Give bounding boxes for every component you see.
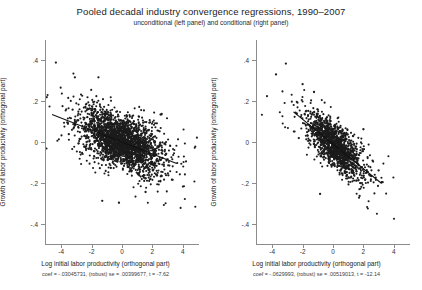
y-tick-right-4: -.4	[252, 224, 256, 225]
y-tick-label: .4	[33, 57, 38, 64]
y-tick-label: -.4	[242, 220, 249, 227]
y-tick-mark	[41, 183, 45, 184]
y-tick-right-3: -.2	[252, 183, 256, 184]
panel-conditional: Growth of labor productivity (orthogonal…	[211, 36, 422, 290]
y-tick-label: .2	[33, 98, 38, 105]
y-tick-left-0: .4	[41, 60, 45, 61]
y-tick-mark	[252, 183, 256, 184]
y-tick-label: -.2	[242, 179, 249, 186]
y-tick-mark	[252, 101, 256, 102]
y-tick-right-2: 0	[252, 142, 256, 143]
plot-area-right	[257, 44, 409, 240]
figure-subtitle: unconditional (left panel) and condition…	[0, 19, 422, 26]
y-tick-mark	[252, 224, 256, 225]
x-tick-label-right-3: 2	[362, 248, 366, 255]
y-axis-title-left: Growth of labor productivity (orthogonal…	[0, 78, 6, 207]
y-tick-mark	[41, 101, 45, 102]
regression-stats-left: coef = -.03045731, (robust) se = .003996…	[0, 271, 211, 277]
y-tick-mark	[41, 142, 45, 143]
y-tick-label: 0	[245, 139, 249, 146]
x-tick-label-left-2: 0	[120, 248, 124, 255]
x-axis-title-left: Log initial labor productivity (orthogon…	[0, 260, 211, 267]
x-tick-label-right-0: -4	[269, 248, 275, 255]
regression-line-right	[257, 44, 409, 240]
regression-line-left	[46, 44, 198, 240]
regression-stats-right: coef = -.0629993, (robust) se = .0051901…	[211, 271, 422, 277]
y-tick-right-1: .2	[252, 101, 256, 102]
y-tick-right-0: .4	[252, 60, 256, 61]
y-tick-label: .4	[244, 57, 249, 64]
x-tick-label-right-1: -2	[300, 248, 306, 255]
y-tick-left-4: -.4	[41, 224, 45, 225]
y-tick-mark	[41, 60, 45, 61]
x-axis-title-right: Log initial labor productivity (orthogon…	[211, 260, 422, 267]
y-axis-title-right: Growth of labor productivity (orthogonal…	[210, 78, 217, 207]
figure-title: Pooled decadal industry convergence regr…	[0, 6, 422, 17]
y-tick-label: .2	[244, 98, 249, 105]
y-tick-left-2: 0	[41, 142, 45, 143]
y-tick-mark	[252, 60, 256, 61]
y-tick-mark	[252, 142, 256, 143]
x-tick-label-right-2: 0	[331, 248, 335, 255]
x-tick-label-right-4: 4	[392, 248, 396, 255]
y-tick-mark	[41, 224, 45, 225]
y-tick-left-3: -.2	[41, 183, 45, 184]
x-tick-label-left-4: 4	[181, 248, 185, 255]
x-tick-label-left-3: 2	[151, 248, 155, 255]
y-tick-label: -.4	[31, 220, 38, 227]
x-tick-label-left-1: -2	[89, 248, 95, 255]
y-tick-label: 0	[34, 139, 38, 146]
y-tick-left-1: .2	[41, 101, 45, 102]
panel-unconditional: Growth of labor productivity (orthogonal…	[0, 36, 211, 290]
figure-canvas: Pooled decadal industry convergence regr…	[0, 0, 422, 290]
y-tick-label: -.2	[31, 179, 38, 186]
plot-area-left	[46, 44, 198, 240]
x-tick-label-left-0: -4	[58, 248, 64, 255]
